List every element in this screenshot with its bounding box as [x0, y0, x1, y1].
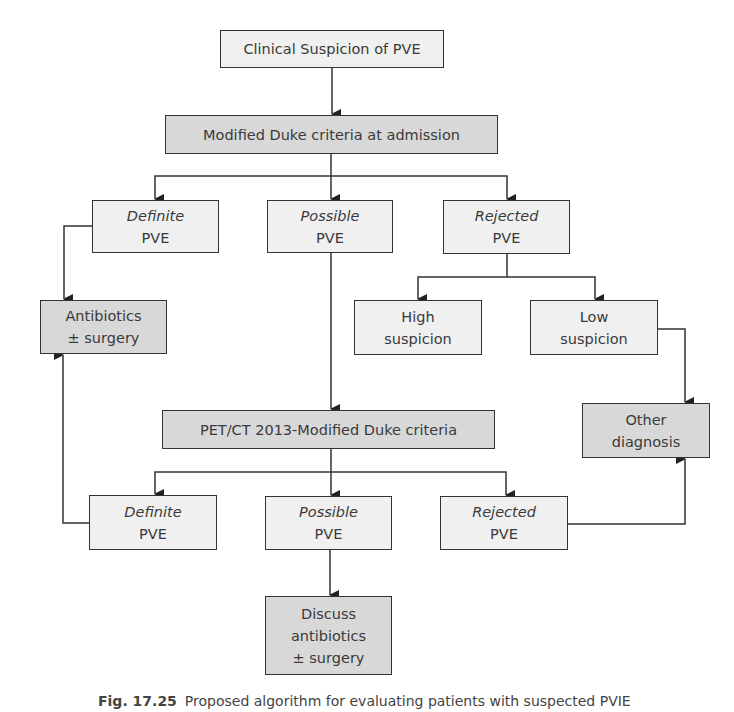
node-label: Other [625, 409, 666, 431]
node-label: PVE [490, 523, 518, 545]
node-possible-pve-1: Possible PVE [267, 200, 393, 253]
node-high-suspicion: High suspicion [354, 300, 482, 355]
node-label: PVE [493, 227, 521, 249]
node-label: PVE [142, 227, 170, 249]
node-label: Low [580, 306, 609, 328]
node-label-qualifier: Rejected [475, 205, 539, 227]
figure-caption: Fig. 17.25Proposed algorithm for evaluat… [98, 693, 631, 709]
node-label: Clinical Suspicion of PVE [243, 38, 420, 60]
node-discuss-antibiotics: Discuss antibiotics ± surgery [265, 596, 392, 675]
node-petct-duke: PET/CT 2013-Modified Duke criteria [162, 410, 495, 449]
node-duke-admission: Modified Duke criteria at admission [165, 115, 498, 154]
node-definite-pve-1: Definite PVE [92, 200, 219, 253]
node-label: PVE [139, 523, 167, 545]
node-label-qualifier: Possible [301, 205, 360, 227]
node-clinical-suspicion: Clinical Suspicion of PVE [220, 30, 444, 68]
node-label: ± surgery [68, 327, 140, 349]
node-definite-pve-2: Definite PVE [89, 495, 217, 550]
node-antibiotics-surgery: Antibiotics ± surgery [40, 300, 167, 354]
node-label: antibiotics [291, 625, 366, 647]
figure-caption-text: Proposed algorithm for evaluating patien… [185, 693, 631, 709]
node-label: ± surgery [293, 647, 365, 669]
figure-label: Fig. 17.25 [98, 693, 177, 709]
node-label: suspicion [560, 328, 628, 350]
node-label: Modified Duke criteria at admission [203, 124, 460, 146]
node-label: PVE [316, 227, 344, 249]
node-possible-pve-2: Possible PVE [265, 496, 392, 550]
node-rejected-pve-1: Rejected PVE [443, 200, 570, 254]
node-label: Antibiotics [65, 305, 141, 327]
node-label: High [401, 306, 434, 328]
node-label: suspicion [384, 328, 452, 350]
node-other-diagnosis: Other diagnosis [582, 403, 710, 458]
node-label-qualifier: Definite [124, 501, 181, 523]
node-label-qualifier: Rejected [472, 501, 536, 523]
node-label: Discuss [301, 603, 356, 625]
node-label: PVE [315, 523, 343, 545]
node-label-qualifier: Definite [127, 205, 184, 227]
node-low-suspicion: Low suspicion [530, 300, 658, 355]
node-label-qualifier: Possible [299, 501, 358, 523]
node-rejected-pve-2: Rejected PVE [440, 496, 568, 550]
node-label: diagnosis [612, 431, 681, 453]
node-label: PET/CT 2013-Modified Duke criteria [200, 419, 457, 441]
